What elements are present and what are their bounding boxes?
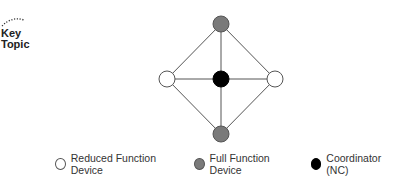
coordinator-circle-icon (311, 158, 322, 170)
legend-item-coordinator: Coordinator (NC) (311, 152, 396, 176)
edge (167, 24, 221, 79)
full-function-node-bottom (213, 126, 229, 142)
full-circle-icon (194, 158, 205, 170)
legend-item-reduced: Reduced Function Device (55, 152, 176, 176)
reduced-function-node-left (159, 71, 175, 87)
legend-label: Coordinator (NC) (326, 152, 396, 176)
reduced-circle-icon (55, 158, 66, 170)
edge (221, 24, 275, 79)
legend-item-full: Full Function Device (194, 152, 293, 176)
edge (221, 79, 275, 134)
coordinator-node (213, 71, 229, 87)
network-topology-diagram (0, 0, 414, 150)
full-function-node-top (213, 16, 229, 32)
edge (167, 79, 221, 134)
reduced-function-node-right (267, 71, 283, 87)
legend-label: Full Function Device (210, 152, 293, 176)
legend-label: Reduced Function Device (71, 152, 176, 176)
legend: Reduced Function Device Full Function De… (55, 152, 414, 176)
